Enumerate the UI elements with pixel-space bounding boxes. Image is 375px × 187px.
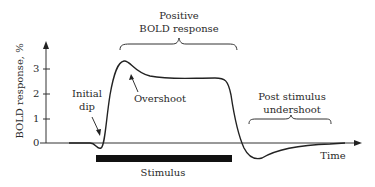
y-axis-arrow-icon bbox=[43, 41, 49, 49]
x-axis-label: Time bbox=[313, 150, 353, 162]
positive-label-line2: BOLD response bbox=[139, 23, 219, 35]
y-tick-0: 0 bbox=[33, 138, 39, 148]
stimulus-bar bbox=[96, 155, 232, 162]
initial-dip-arrow-icon bbox=[96, 129, 101, 136]
overshoot-label: Overshoot bbox=[130, 93, 190, 105]
y-tick-3: 3 bbox=[33, 64, 39, 74]
overshoot-arrow-icon bbox=[129, 74, 134, 80]
initial-dip-label-line2: dip bbox=[70, 101, 104, 113]
positive-brace bbox=[120, 38, 237, 50]
post-stimulus-label-line1: Post stimulus bbox=[255, 91, 329, 103]
stimulus-label: Stimulus bbox=[138, 167, 188, 179]
initial-dip-label-line1: Initial bbox=[70, 88, 104, 100]
positive-label-line1: Positive bbox=[154, 10, 204, 22]
y-tick-2: 2 bbox=[33, 89, 39, 99]
x-axis-arrow-icon bbox=[354, 140, 362, 146]
post-stimulus-brace bbox=[249, 115, 331, 124]
y-tick-1: 1 bbox=[33, 114, 39, 124]
y-axis-label: BOLD response, % bbox=[14, 49, 25, 139]
post-stimulus-label-line2: undershoot bbox=[255, 104, 329, 116]
